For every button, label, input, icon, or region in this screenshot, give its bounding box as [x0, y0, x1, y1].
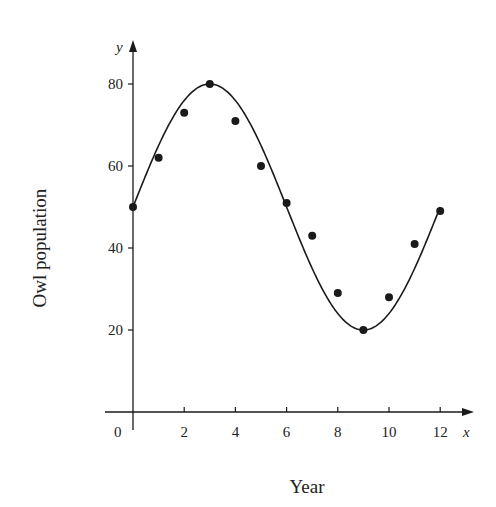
- owl-population-chart: 24681012 20406080 0 x y Year Owl populat…: [0, 0, 496, 507]
- y-tick-label: 60: [108, 158, 123, 174]
- data-point: [129, 203, 137, 211]
- data-point: [308, 232, 316, 240]
- data-point: [359, 326, 367, 334]
- y-tick-label: 40: [108, 240, 123, 256]
- y-tick-label: 80: [108, 76, 123, 92]
- data-point: [257, 162, 265, 170]
- x-tick-label: 8: [334, 424, 342, 440]
- origin-label: 0: [114, 424, 122, 440]
- x-variable-label: x: [462, 424, 470, 440]
- model-curve: [133, 84, 440, 330]
- data-point: [283, 199, 291, 207]
- data-point: [334, 289, 342, 297]
- x-tick-label: 6: [283, 424, 291, 440]
- y-tick-label: 20: [108, 322, 123, 338]
- data-point: [155, 154, 163, 162]
- data-point: [411, 240, 419, 248]
- data-point: [206, 80, 214, 88]
- y-axis-title: Owl population: [29, 188, 50, 307]
- data-point: [385, 293, 393, 301]
- y-variable-label: y: [114, 39, 123, 55]
- x-tick-label: 2: [180, 424, 188, 440]
- x-axis-arrow-icon: [462, 408, 474, 416]
- data-point: [180, 109, 188, 117]
- x-tick-label: 4: [232, 424, 240, 440]
- x-tick-label: 10: [382, 424, 397, 440]
- x-tick-label: 12: [433, 424, 448, 440]
- x-axis-title: Year: [289, 476, 325, 497]
- data-point: [231, 117, 239, 125]
- y-axis-arrow-icon: [129, 40, 137, 52]
- axes: [105, 50, 465, 430]
- data-point: [436, 207, 444, 215]
